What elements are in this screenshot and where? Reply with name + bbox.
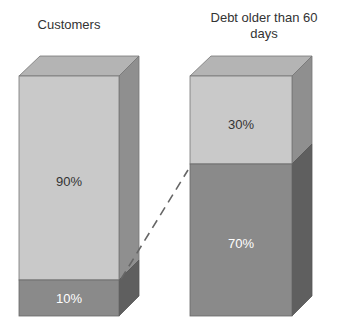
left-top-label: 90%: [56, 174, 82, 189]
left-bottom-label: 10%: [56, 291, 82, 306]
left-side-light: [119, 56, 139, 280]
right-bottom-label: 70%: [228, 236, 254, 251]
left-top-face: [19, 56, 139, 76]
right-bar: 30% 70%: [190, 56, 312, 316]
chart-canvas: 90% 10% 30% 70%: [0, 0, 337, 332]
right-top-label: 30%: [228, 117, 254, 132]
right-side-dark: [292, 144, 312, 316]
right-top-face: [190, 56, 312, 76]
left-bar: 90% 10%: [19, 56, 139, 316]
